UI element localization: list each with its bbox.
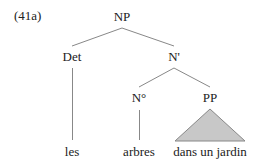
tree-branches bbox=[0, 0, 264, 167]
pp-triangle bbox=[175, 109, 245, 141]
node-n0: N° bbox=[132, 91, 147, 105]
node-nbar: N' bbox=[168, 50, 180, 64]
branch-nbar-n0 bbox=[139, 68, 174, 87]
branch-nbar-pp bbox=[174, 68, 210, 87]
leaf-arbres: arbres bbox=[123, 145, 155, 159]
node-det: Det bbox=[63, 50, 82, 64]
node-np: NP bbox=[114, 10, 131, 24]
branch-np-det bbox=[72, 28, 122, 46]
node-pp: PP bbox=[203, 91, 217, 105]
leaf-pp-phrase: dans un jardin bbox=[173, 145, 247, 159]
branch-np-nbar bbox=[122, 28, 174, 46]
leaf-les: les bbox=[65, 145, 79, 159]
